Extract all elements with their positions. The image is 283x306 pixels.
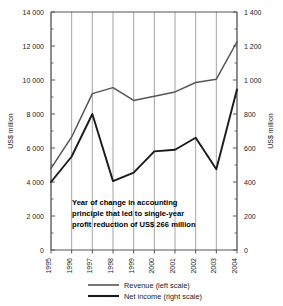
annotation-block: Year of change in accounting principle t…: [72, 198, 196, 229]
year-label-2001: 2001: [169, 258, 176, 274]
year-label-1997: 1997: [86, 258, 93, 274]
right-tick-label: 200: [244, 213, 256, 220]
left-tick-label: 14 000: [23, 9, 45, 16]
right-tick-label: 1 000: [244, 77, 262, 84]
year-label-1996: 1996: [66, 258, 73, 274]
legend-label-net-income: Net income (right scale): [124, 292, 202, 301]
legend-label-revenue: Revenue (left scale): [124, 281, 190, 290]
line-chart: 02 0004 0006 0008 00010 00012 00014 000 …: [0, 0, 283, 306]
year-label-1999: 1999: [128, 258, 135, 274]
annotation-line-3: profit reduction of US$ 266 million: [72, 220, 196, 229]
left-tick-label: 0: [40, 247, 44, 254]
year-label-2004: 2004: [231, 258, 238, 274]
left-tick-label: 8 000: [26, 111, 44, 118]
right-tick-label: 600: [244, 145, 256, 152]
annotation-line-1: Year of change in accounting: [72, 198, 178, 207]
left-tick-label: 4 000: [26, 179, 44, 186]
chart-figure: 02 0004 0006 0008 00010 00012 00014 000 …: [0, 0, 283, 306]
left-tick-label: 10 000: [23, 77, 45, 84]
right-tick-label: 400: [244, 179, 256, 186]
right-tick-label: 0: [244, 247, 248, 254]
year-label-2000: 2000: [148, 258, 155, 274]
left-tick-label: 2 000: [26, 213, 44, 220]
left-tick-label: 12 000: [23, 43, 45, 50]
year-label-1998: 1998: [107, 258, 114, 274]
year-label-2003: 2003: [210, 258, 217, 274]
annotation-line-2: principle that led to single-year: [72, 209, 184, 218]
left-tick-label: 6 000: [26, 145, 44, 152]
right-tick-label: 800: [244, 111, 256, 118]
right-tick-label: 1 200: [244, 43, 262, 50]
right-axis-title: US$ million: [267, 113, 274, 149]
year-label-2002: 2002: [190, 258, 197, 274]
year-label-1995: 1995: [45, 258, 52, 274]
left-axis-title: US$ million: [7, 113, 14, 149]
right-tick-label: 1 400: [244, 9, 262, 16]
